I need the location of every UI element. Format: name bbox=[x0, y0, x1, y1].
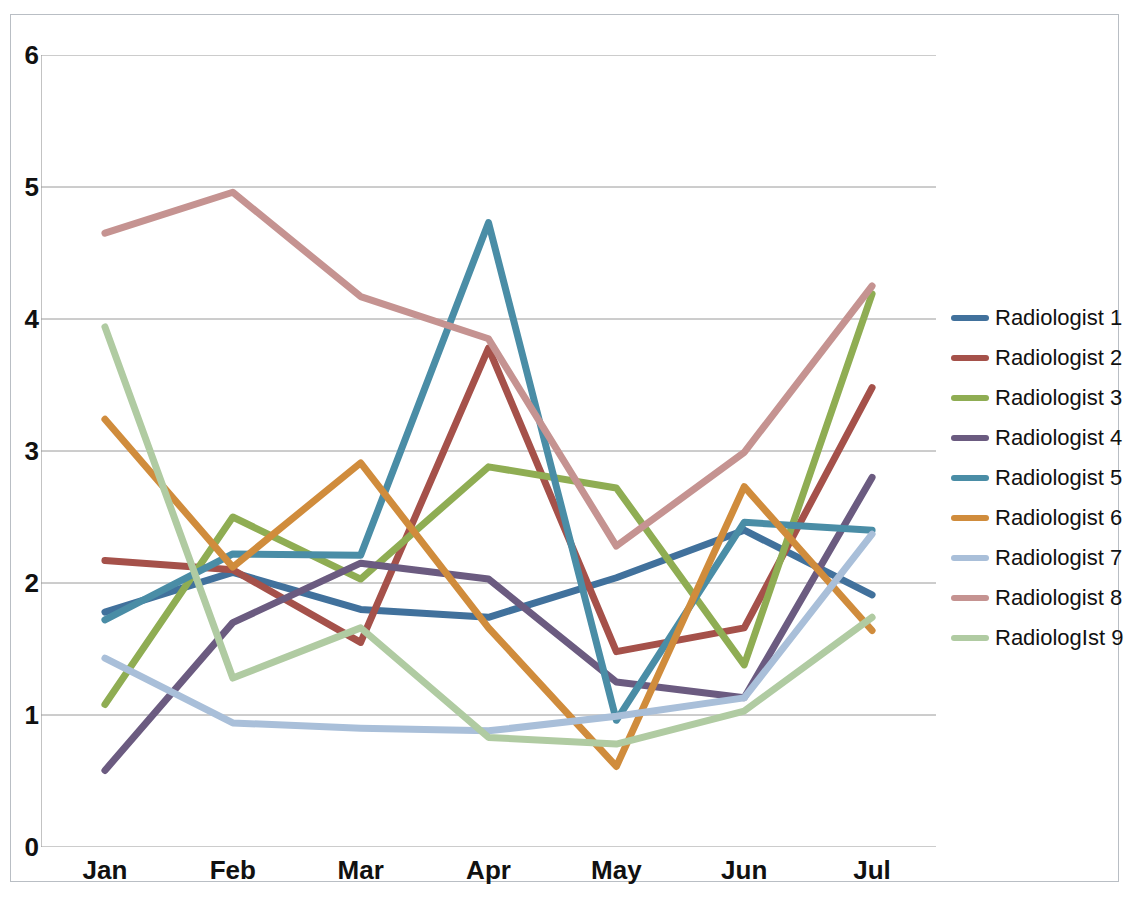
plot-svg bbox=[41, 55, 936, 847]
legend-swatch-icon bbox=[951, 475, 989, 481]
legend-item[interactable]: Radiologist 7 bbox=[951, 538, 1131, 578]
legend-swatch-icon bbox=[951, 435, 989, 441]
legend-item[interactable]: Radiologist 6 bbox=[951, 498, 1131, 538]
legend-swatch-icon bbox=[951, 595, 989, 601]
legend-swatch-icon bbox=[951, 635, 989, 641]
legend-label: Radiologist 1 bbox=[995, 307, 1122, 329]
legend-item[interactable]: RadiologIst 9 bbox=[951, 618, 1131, 658]
y-axis-labels: 6543210 bbox=[11, 55, 39, 847]
legend-label: RadiologIst 9 bbox=[995, 627, 1123, 649]
legend-swatch-icon bbox=[951, 315, 989, 321]
chart-screenshot: 6543210 JanFebMarAprMayJunJul Radiologis… bbox=[0, 0, 1133, 900]
legend-label: Radiologist 5 bbox=[995, 467, 1122, 489]
legend-item[interactable]: Radiologist 3 bbox=[951, 378, 1131, 418]
legend-item[interactable]: Radiologist 5 bbox=[951, 458, 1131, 498]
legend-swatch-icon bbox=[951, 395, 989, 401]
x-axis-tick-label: May bbox=[591, 857, 642, 883]
legend-swatch-icon bbox=[951, 355, 989, 361]
legend-swatch-icon bbox=[951, 555, 989, 561]
legend-label: Radiologist 3 bbox=[995, 387, 1122, 409]
y-axis-tick-label: 6 bbox=[13, 42, 39, 68]
x-axis-tick-label: Jul bbox=[853, 857, 891, 883]
legend-label: Radiologist 2 bbox=[995, 347, 1122, 369]
y-axis-tick-label: 4 bbox=[13, 306, 39, 332]
legend-label: Radiologist 4 bbox=[995, 427, 1122, 449]
legend-label: Radiologist 7 bbox=[995, 547, 1122, 569]
legend-label: Radiologist 6 bbox=[995, 507, 1122, 529]
x-axis-tick-label: Jan bbox=[83, 857, 128, 883]
series-line-8[interactable] bbox=[105, 192, 872, 546]
y-axis-tick-label: 5 bbox=[13, 174, 39, 200]
plot-area bbox=[41, 55, 936, 847]
y-axis-tick-label: 1 bbox=[13, 702, 39, 728]
legend-label: Radiologist 8 bbox=[995, 587, 1122, 609]
legend-item[interactable]: Radiologist 1 bbox=[951, 298, 1131, 338]
x-axis-tick-label: Mar bbox=[338, 857, 384, 883]
x-axis-tick-label: Feb bbox=[210, 857, 256, 883]
y-axis-tick-label: 0 bbox=[13, 834, 39, 860]
series-lines bbox=[105, 192, 872, 770]
y-axis-tick-label: 2 bbox=[13, 570, 39, 596]
legend-item[interactable]: Radiologist 4 bbox=[951, 418, 1131, 458]
x-axis-labels: JanFebMarAprMayJunJul bbox=[41, 857, 936, 897]
y-axis-tick-label: 3 bbox=[13, 438, 39, 464]
legend-swatch-icon bbox=[951, 515, 989, 521]
chart-frame: 6543210 JanFebMarAprMayJunJul Radiologis… bbox=[10, 14, 1119, 882]
legend-item[interactable]: Radiologist 8 bbox=[951, 578, 1131, 618]
chart-legend: Radiologist 1Radiologist 2Radiologist 3R… bbox=[951, 298, 1131, 658]
legend-item[interactable]: Radiologist 2 bbox=[951, 338, 1131, 378]
x-axis-tick-label: Jun bbox=[721, 857, 767, 883]
x-axis-tick-label: Apr bbox=[466, 857, 511, 883]
